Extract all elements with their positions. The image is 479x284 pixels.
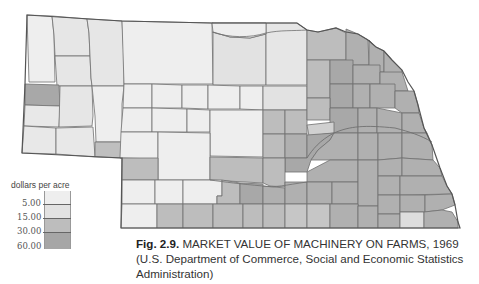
county (27, 15, 55, 82)
county (307, 98, 330, 120)
county (353, 84, 370, 108)
county (285, 134, 307, 158)
county (56, 127, 95, 157)
county (122, 21, 213, 84)
county (95, 142, 122, 158)
legend-title: dollars per acre (11, 180, 70, 190)
county (263, 134, 285, 158)
county (358, 133, 378, 160)
county (370, 84, 395, 108)
county (120, 132, 158, 159)
county (330, 60, 353, 84)
county (358, 108, 377, 133)
county (402, 158, 442, 176)
county (22, 126, 56, 154)
county (378, 158, 402, 176)
county (182, 85, 208, 109)
county (25, 84, 60, 106)
legend-label: 15.00 (17, 212, 450, 222)
county (263, 86, 307, 110)
legend-label: 30.00 (17, 226, 450, 236)
county (187, 109, 210, 132)
county (285, 110, 307, 134)
county (307, 160, 358, 182)
county (59, 86, 93, 127)
county (152, 108, 187, 132)
county (87, 19, 124, 86)
county (307, 28, 346, 60)
county (210, 157, 263, 183)
county (121, 108, 152, 132)
county (122, 158, 158, 180)
county (158, 132, 210, 180)
county (55, 56, 92, 86)
county (152, 84, 182, 108)
county (263, 158, 285, 187)
county (52, 16, 90, 56)
county (208, 85, 240, 109)
county (24, 105, 60, 127)
legend-label: 5.00 (22, 198, 450, 208)
county (92, 86, 124, 142)
county (378, 176, 400, 195)
county (123, 84, 152, 108)
county (330, 84, 353, 108)
county (240, 86, 263, 110)
county (263, 110, 285, 134)
county (307, 60, 330, 98)
figure-title: MARKET VALUE OF MACHINERY ON FARMS, (182, 237, 429, 250)
figure-number: Fig. 2.9. (136, 237, 179, 250)
county (378, 133, 402, 160)
figure-caption: Fig. 2.9. MARKET VALUE OF MACHINERY ON F… (136, 236, 476, 281)
county (353, 65, 380, 84)
county (210, 110, 263, 157)
